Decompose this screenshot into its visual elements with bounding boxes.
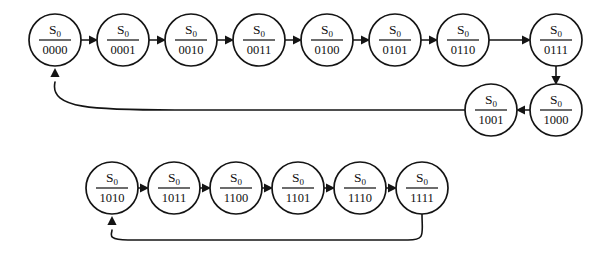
state-node[interactable]: S00000 xyxy=(29,14,81,66)
arrowhead xyxy=(50,68,59,77)
state-diagram-canvas: S00000S00001S00010S00011S00100S00101S001… xyxy=(0,0,615,258)
state-diagram-figure: S00000S00001S00010S00011S00100S00101S001… xyxy=(0,0,615,258)
feedback-path xyxy=(54,82,465,110)
state-node[interactable]: S00111 xyxy=(530,14,582,66)
feedback-path xyxy=(111,214,422,240)
edge-1111-1010[interactable] xyxy=(107,214,422,240)
state-node[interactable]: S01111 xyxy=(396,162,448,214)
state-node-code: 1010 xyxy=(100,191,125,205)
state-node-code: 1001 xyxy=(479,113,504,127)
edge-0100-0101[interactable] xyxy=(353,35,370,44)
state-node-code: 1011 xyxy=(162,191,187,205)
state-node[interactable]: S00100 xyxy=(301,14,353,66)
state-node[interactable]: S00010 xyxy=(165,14,217,66)
state-node-code: 1110 xyxy=(348,191,372,205)
state-node[interactable]: S01000 xyxy=(530,84,582,136)
edge-1001-0000[interactable] xyxy=(50,68,465,110)
state-node-code: 1101 xyxy=(286,191,311,205)
state-node[interactable]: S00001 xyxy=(97,14,149,66)
state-node[interactable]: S01010 xyxy=(86,162,138,214)
edge-0010-0011[interactable] xyxy=(217,35,234,44)
arrowhead xyxy=(107,216,116,225)
state-node-code: 0010 xyxy=(179,43,204,57)
state-node-code: 1100 xyxy=(224,191,249,205)
edge-0000-0001[interactable] xyxy=(81,35,98,44)
nodes-layer: S00000S00001S00010S00011S00100S00101S001… xyxy=(29,14,582,214)
edge-0101-0110[interactable] xyxy=(421,35,438,44)
state-node-code: 1000 xyxy=(544,113,569,127)
state-node[interactable]: S01110 xyxy=(334,162,386,214)
edge-0011-0100[interactable] xyxy=(285,35,302,44)
state-node[interactable]: S00110 xyxy=(437,14,489,66)
state-node-code: 0110 xyxy=(451,43,476,57)
edge-0111-1000[interactable] xyxy=(551,66,560,85)
state-node-code: 1111 xyxy=(410,191,434,205)
state-node[interactable]: S01100 xyxy=(210,162,262,214)
state-node[interactable]: S01011 xyxy=(148,162,200,214)
state-node[interactable]: S00011 xyxy=(233,14,285,66)
state-node-code: 0000 xyxy=(43,43,68,57)
state-node-code: 0111 xyxy=(544,43,568,57)
state-node[interactable]: S00101 xyxy=(369,14,421,66)
state-node-code: 0101 xyxy=(383,43,408,57)
edge-0001-0010[interactable] xyxy=(149,35,166,44)
state-node[interactable]: S01101 xyxy=(272,162,324,214)
state-node-code: 0001 xyxy=(111,43,136,57)
edge-0110-0111[interactable] xyxy=(489,35,531,44)
state-node[interactable]: S01001 xyxy=(465,84,517,136)
state-node-code: 0100 xyxy=(315,43,340,57)
state-node-code: 0011 xyxy=(247,43,272,57)
edge-1000-1001[interactable] xyxy=(516,105,530,114)
